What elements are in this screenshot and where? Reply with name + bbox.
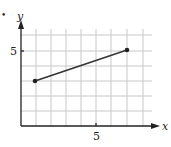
- x-axis-label: x: [162, 120, 169, 133]
- bullet: •: [1, 10, 6, 20]
- x-tick-label: 5: [93, 130, 100, 143]
- y-axis-label: y: [16, 10, 24, 23]
- grid: [21, 29, 152, 126]
- point-end: [125, 48, 130, 53]
- x-arrow-icon: [151, 123, 160, 129]
- y-tick-label: 5: [10, 45, 17, 58]
- point-start: [33, 79, 38, 84]
